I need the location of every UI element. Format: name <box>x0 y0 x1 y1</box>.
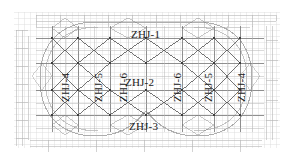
truss-label-zhj-2: ZHJ-2 <box>125 77 154 88</box>
truss-label-zhj-6-right: ZHJ-6 <box>172 73 183 102</box>
truss-label-zhj-4-left: ZHJ-4 <box>60 73 71 102</box>
truss-label-zhj-4-right: ZHJ-4 <box>236 73 247 102</box>
truss-label-zhj-6-left: ZHJ-6 <box>118 73 129 102</box>
drawing-canvas: ZHJ-1 ZHJ-2 ZHJ-3 ZHJ-4 ZHJ-5 ZHJ-6 ZHJ-… <box>0 0 292 158</box>
truss-label-zhj-5-right: ZHJ-5 <box>203 73 214 102</box>
truss-label-zhj-1: ZHJ-1 <box>131 29 160 40</box>
truss-label-zhj-3: ZHJ-3 <box>129 121 158 132</box>
truss-label-zhj-5-left: ZHJ-5 <box>93 73 104 102</box>
